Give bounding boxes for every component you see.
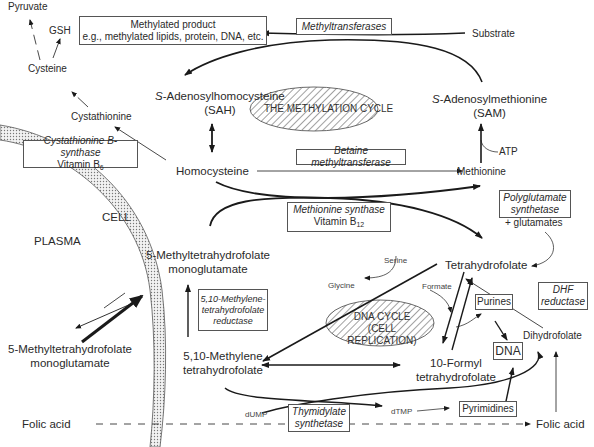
sah-label: SS-Adenosylhomocysteine-Adenosylhomocyst… (155, 89, 285, 117)
thymidylate-synthetase-box: Thymidylate synthetase (288, 404, 350, 432)
methionine-label: Methionine (457, 166, 506, 178)
mthfr-line2: tetrahydrofolate (202, 305, 265, 316)
ms-vitamin-text: Vitamin B (314, 216, 357, 227)
plasma-5mthf-line1: 5-Methyltetrahydrofolate (8, 342, 132, 356)
ms-enzyme-text: Methionine synthase (293, 204, 385, 216)
mthfr-line3: reductase (213, 316, 253, 327)
purines-text: Purines (477, 296, 511, 308)
dhf-line2: reductase (541, 296, 585, 308)
ms-vitamin-sub: 12 (356, 221, 364, 228)
methylated-product-examples: e.g., methylated lipids, protein, DNA, e… (82, 31, 263, 43)
plasma-label: PLASMA (34, 234, 81, 248)
sah-abbrev: (SAH) (155, 103, 285, 117)
dump-label: dUMP (245, 410, 267, 420)
formyl-line2: tetrahydrofolate (416, 370, 496, 384)
gsh-label: GSH (49, 25, 71, 37)
tetrahydrofolate-label: Tetrahydrofolate (445, 258, 527, 272)
homocysteine-label: Homocysteine (176, 164, 249, 178)
folic-acid-plasma-label: Folic acid (22, 417, 71, 431)
cystathionine-label: Cystathionine (71, 111, 132, 123)
betaine-box: Betaine methyltransferase (296, 149, 406, 165)
dna-box: DNA (493, 342, 523, 360)
dtmp-label: dTMP (391, 407, 412, 417)
cbs-vitamin-sub: 6 (100, 164, 104, 171)
sah-name-visible: -Adenosylhomocysteine (163, 90, 285, 102)
cbs-vitamin-text: Vitamin B (57, 159, 100, 170)
methionine-synthase-box: Methionine synthase Vitamin B12 (287, 202, 391, 232)
formyl-line1: 10-Formyl (416, 356, 496, 370)
methylated-product-title: Methylated product (130, 19, 215, 31)
purines-box: Purines (475, 294, 513, 310)
dhf-reductase-box: DHF reductase (538, 282, 588, 310)
methylene-thf-label: 5,10-Methylene tetrahydrofolate (183, 349, 263, 377)
dna-cycle-text: DNA CYCLE (332, 311, 432, 323)
cell-5mthf-line2: monoglutamate (146, 262, 270, 276)
cell-replication-text: (CELL REPLICATION) (332, 323, 432, 347)
cbs-box: Cystathionine B-synthase Vitamin B6 (23, 140, 138, 168)
serine-label: Serine (384, 256, 407, 266)
methylated-product-box: Methylated product e.g., methylated lipi… (79, 16, 267, 45)
cell-5mthf-line1: 5-Methyltetrahydrofolate (146, 248, 270, 262)
cbs-vitamin: Vitamin B6 (57, 159, 104, 174)
atp-label: ATP (499, 146, 518, 158)
formate-label: Formate (422, 282, 452, 292)
formyl-thf-label: 10-Formyl tetrahydrofolate (416, 356, 496, 384)
glycine-label: Glycine (328, 281, 355, 291)
betaine-text: Betaine methyltransferase (297, 145, 405, 169)
mthfr-line1: 5,10-Methylene- (200, 294, 265, 305)
mthfr-box: 5,10-Methylene- tetrahydrofolate reducta… (198, 289, 268, 331)
methyltransferases-text: Methyltransferases (302, 21, 386, 33)
dna-text: DNA (495, 345, 520, 357)
ms-vitamin: Vitamin B12 (314, 216, 364, 231)
sam-label: S-AdenosylmethionineS-Adenosylmethionine… (432, 92, 547, 120)
plasma-5mthf-line2: monoglutamate (8, 356, 132, 370)
pyrimidines-box: Pyrimidines (459, 401, 517, 417)
polyglutamate-line1: Polyglutamate (503, 192, 566, 204)
glutamates-label: + glutamates (505, 217, 563, 229)
dhf-line1: DHF (553, 284, 574, 296)
sam-name-visible: -Adenosylmethionine (440, 93, 547, 105)
methylene-line2: tetrahydrofolate (183, 363, 263, 377)
pyruvate-label: Pyruvate (8, 1, 47, 13)
pyrimidines-text: Pyrimidines (462, 403, 514, 415)
plasma-5mthf-label: 5-Methyltetrahydrofolate monoglutamate (8, 342, 132, 370)
sam-abbrev: (SAM) (432, 106, 547, 120)
polyglutamate-box: Polyglutamate synthetase (499, 190, 571, 218)
cysteine-label: Cysteine (28, 63, 67, 75)
methylene-line1: 5,10-Methylene (183, 349, 263, 363)
cell-5mthf-label: 5-Methyltetrahydrofolate monoglutamate (146, 248, 270, 276)
folic-acid-cell-label: Folic acid (536, 417, 585, 431)
cbs-enzyme-text: Cystathionine B-synthase (24, 135, 137, 159)
cell-label: CELL (102, 210, 131, 224)
polyglutamate-line2: synthetase (511, 204, 559, 216)
dna-cycle-label: DNA CYCLE (CELL REPLICATION) (330, 311, 434, 347)
ts-line2: synthetase (295, 418, 343, 430)
ts-line1: Thymidylate (292, 406, 346, 418)
substrate-label: Substrate (472, 28, 515, 40)
dihydrofolate-label: Dihydrofolate (523, 330, 582, 342)
methyltransferases-box: Methyltransferases (296, 18, 392, 35)
